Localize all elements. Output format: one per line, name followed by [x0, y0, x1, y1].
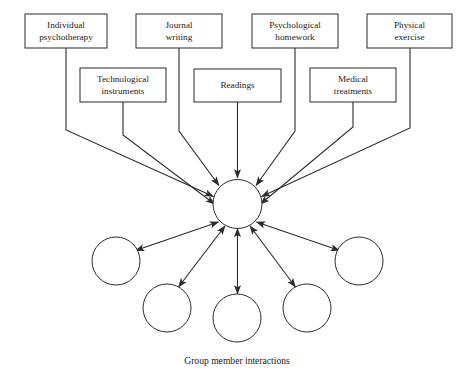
connector-member-5: [257, 222, 340, 251]
node-psychological-homework[interactable]: Psychologicalhomework: [252, 14, 338, 48]
connector-technological-instruments: [123, 102, 215, 204]
source-box-layer: IndividualpsychotherapyTechnologicalinst…: [25, 14, 452, 102]
connector-medical-treatments: [261, 102, 354, 204]
node-label-medical-treatments-line1: Medical: [338, 74, 369, 84]
node-label-journal-writing-line2: writing: [166, 32, 193, 42]
node-label-journal-writing-line1: Journal: [165, 20, 192, 30]
node-label-individual-psychotherapy-line1: Individual: [47, 20, 85, 30]
connector-member-4: [250, 226, 296, 287]
node-medical-treatments[interactable]: Medicaltreatments: [310, 68, 396, 102]
node-label-readings-line1: Readings: [220, 80, 255, 90]
diagram-caption: Group member interactions: [184, 355, 290, 366]
group-interaction-diagram: IndividualpsychotherapyTechnologicalinst…: [0, 0, 471, 377]
node-label-psychological-homework-line1: Psychological: [269, 20, 321, 30]
node-label-technological-instruments-line2: instruments: [102, 86, 145, 96]
node-individual-psychotherapy[interactable]: Individualpsychotherapy: [25, 14, 107, 48]
group-member-5[interactable]: [335, 237, 383, 285]
group-member-1[interactable]: [92, 237, 140, 285]
node-label-psychological-homework-line2: homework: [275, 32, 315, 42]
group-member-2[interactable]: [143, 284, 191, 332]
diagram-root: IndividualpsychotherapyTechnologicalinst…: [0, 0, 471, 377]
node-label-physical-exercise-line1: Physical: [394, 20, 426, 30]
node-label-technological-instruments-line1: Technological: [97, 74, 149, 84]
node-readings[interactable]: Readings: [194, 69, 281, 102]
group-member-4[interactable]: [283, 284, 331, 332]
node-technological-instruments[interactable]: Technologicalinstruments: [80, 68, 166, 102]
connector-member-2: [179, 226, 226, 287]
member-connector-layer: [136, 222, 340, 294]
node-label-medical-treatments-line2: treatments: [334, 86, 373, 96]
node-label-physical-exercise-line2: exercise: [394, 32, 424, 42]
node-journal-writing[interactable]: Journalwriting: [136, 14, 222, 48]
connector-member-1: [136, 222, 219, 251]
central-hub[interactable]: [213, 180, 262, 229]
node-physical-exercise[interactable]: Physicalexercise: [367, 14, 452, 48]
node-label-individual-psychotherapy-line2: psychotherapy: [39, 32, 93, 42]
group-member-3[interactable]: [213, 294, 261, 342]
hub-layer: [213, 180, 262, 229]
